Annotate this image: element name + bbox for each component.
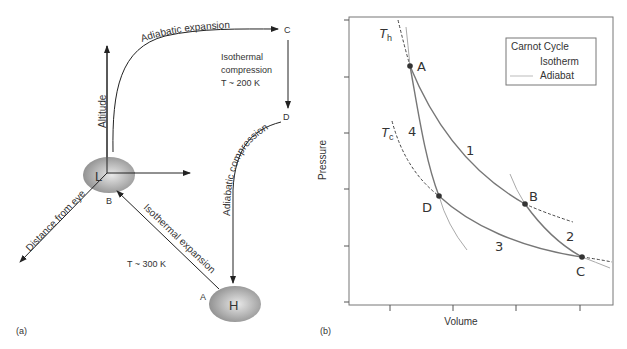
figure: Altitude Distance from eye L B Adiabatic… (0, 0, 627, 349)
isothermal-expansion-temp: T ~ 300 K (127, 259, 166, 269)
point-a-label: A (200, 292, 206, 302)
c-isotherm-extension (582, 257, 612, 262)
tc-label: Tc (381, 125, 394, 142)
adiabatic-expansion-label: Adiabatic expansion (139, 19, 230, 44)
x-axis-label: Volume (444, 316, 478, 327)
panel-b-label: (b) (320, 326, 331, 336)
point-b-label: B (529, 189, 538, 204)
point-a (407, 63, 413, 69)
panel-a-label: (a) (16, 326, 27, 336)
segment-1-isotherm (410, 66, 525, 204)
adiabatic-compression-label: Adiabatic compression (221, 121, 270, 216)
high-ball-label: H (229, 298, 238, 313)
segment-3-isotherm (439, 196, 582, 257)
point-c (579, 254, 585, 260)
low-ball (83, 157, 135, 193)
panel-a: Altitude Distance from eye L B Adiabatic… (16, 19, 291, 336)
segment-4-label: 4 (408, 124, 416, 139)
th-label: Th (379, 26, 392, 43)
y-axis-label: Pressure (317, 140, 328, 180)
legend: Carnot Cycle Isotherm Adiabat (506, 38, 596, 85)
panel-b: Pressure Volume A B C D 1 2 3 4 Th Tc (317, 17, 613, 336)
isothermal-compression-temp: T ~ 200 K (221, 78, 260, 88)
legend-title: Carnot Cycle (511, 41, 569, 52)
low-ball-label: L (95, 169, 102, 184)
legend-adiabat: Adiabat (540, 70, 574, 81)
distance-label: Distance from eye (24, 187, 88, 253)
point-a-label: A (417, 59, 426, 74)
point-b (522, 201, 528, 207)
segment-3-label: 3 (495, 239, 503, 254)
segment-2-label: 2 (566, 229, 574, 244)
isothermal-compression-label-2: compression (221, 65, 272, 75)
y-ticks (344, 20, 349, 302)
c-adiabat-extension (582, 257, 610, 268)
point-c-label: C (576, 264, 585, 279)
point-b-label: B (106, 196, 112, 206)
point-d (436, 193, 442, 199)
x-ticks (390, 305, 580, 311)
d-adiabat-extension (439, 196, 467, 250)
legend-isotherm: Isotherm (540, 56, 579, 67)
point-d-label: D (283, 112, 290, 122)
isothermal-compression-label-1: Isothermal (221, 52, 263, 62)
segment-1-label: 1 (466, 143, 474, 158)
altitude-label: Altitude (97, 94, 108, 128)
isothermal-expansion-path (117, 191, 219, 289)
point-c-label: C (284, 25, 291, 35)
point-d-label: D (422, 200, 432, 215)
